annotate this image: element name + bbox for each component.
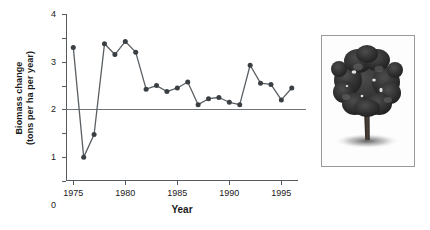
- x-tick-label: 1990: [219, 188, 239, 198]
- data-point: [268, 82, 273, 87]
- y-axis-title: Biomass change (tons per ha per year): [4, 0, 46, 195]
- x-tick-label: 1985: [167, 188, 187, 198]
- y-axis-title-line1: Biomass change: [14, 50, 25, 144]
- data-point: [133, 50, 138, 55]
- data-point: [175, 85, 180, 90]
- x-tick-label: 1975: [63, 188, 83, 198]
- data-point: [81, 155, 86, 160]
- data-point: [123, 39, 128, 44]
- data-point: [92, 132, 97, 137]
- biomass-change-series: [66, 14, 298, 181]
- data-point: [248, 63, 253, 68]
- data-point: [71, 45, 76, 50]
- data-point: [258, 81, 263, 86]
- data-point: [112, 52, 117, 57]
- x-axis-title: Year: [66, 204, 298, 215]
- data-point: [206, 96, 211, 101]
- series-markers: [71, 39, 294, 160]
- y-axis-title-line2: (tons per ha per year): [25, 50, 36, 144]
- y-tick: 3: [62, 181, 66, 182]
- series-line: [73, 41, 291, 157]
- figure: Biomass change (tons per ha per year) 43…: [0, 0, 430, 230]
- y-tick-label: 0: [51, 200, 56, 209]
- tree-illustration: [322, 36, 412, 164]
- data-point: [154, 83, 159, 88]
- data-point: [185, 79, 190, 84]
- data-point: [196, 102, 201, 107]
- y-tick-label: 1: [51, 153, 56, 162]
- data-point: [279, 97, 284, 102]
- y-tick-label: 3: [51, 57, 56, 66]
- data-point: [144, 87, 149, 92]
- data-point: [289, 85, 294, 90]
- plot-area: 43210123 19751980198519901995 Year: [66, 14, 298, 180]
- data-point: [216, 95, 221, 100]
- data-point: [237, 102, 242, 107]
- data-point: [164, 89, 169, 94]
- y-tick-label: 4: [51, 10, 56, 19]
- y-tick-label: 2: [51, 105, 56, 114]
- data-point: [227, 100, 232, 105]
- x-tick-label: 1995: [271, 188, 291, 198]
- tree-photograph: [321, 35, 415, 167]
- x-tick-label: 1980: [115, 188, 135, 198]
- data-point: [102, 41, 107, 46]
